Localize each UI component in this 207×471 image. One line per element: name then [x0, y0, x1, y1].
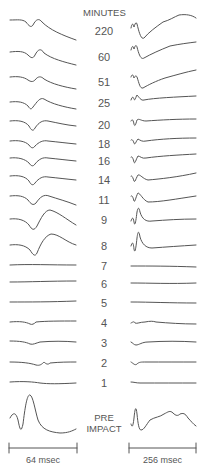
left-scale-bar — [9, 443, 77, 453]
scale-bars — [9, 443, 196, 453]
trace-right-11 — [131, 193, 196, 202]
row-label: 20 — [83, 119, 125, 131]
trace-right-2 — [131, 362, 196, 365]
row-label: 11 — [83, 194, 125, 206]
row-label: 3 — [83, 337, 125, 349]
trace-left-6 — [10, 281, 76, 282]
trace-left-60 — [10, 50, 76, 65]
left-traces — [10, 20, 76, 433]
trace-right-220 — [131, 15, 196, 39]
row-label: 25 — [83, 97, 125, 109]
row-label: 8 — [83, 240, 125, 252]
pre-impact-label-line1: PRE — [83, 413, 125, 423]
trace-right-5 — [131, 302, 196, 303]
trace-left-11 — [10, 195, 76, 205]
trace-right-pre-impact — [131, 409, 196, 430]
right-scale-label: 256 msec — [129, 455, 196, 465]
trace-right-1 — [131, 382, 196, 383]
pre-impact-label-line2: IMPACT — [83, 424, 125, 434]
trace-left-25 — [10, 99, 76, 109]
trace-right-4 — [131, 321, 196, 324]
row-label: 60 — [83, 51, 125, 63]
trace-left-51 — [10, 77, 76, 89]
trace-right-9 — [131, 208, 196, 224]
trace-left-20 — [10, 121, 76, 131]
trace-left-5 — [10, 301, 76, 302]
row-label: 16 — [83, 155, 125, 167]
trace-right-20 — [131, 119, 196, 125]
trace-right-7 — [131, 266, 196, 267]
trace-left-220 — [10, 20, 76, 40]
trace-left-1 — [10, 382, 76, 384]
trace-left-14 — [10, 176, 76, 185]
trace-left-2 — [10, 362, 76, 365]
row-label: 220 — [83, 25, 125, 37]
trace-left-4 — [10, 321, 76, 324]
left-scale-label: 64 msec — [9, 455, 77, 465]
trace-left-18 — [10, 141, 76, 148]
row-label: 6 — [83, 278, 125, 290]
trace-left-9 — [10, 210, 76, 229]
row-label: 7 — [83, 260, 125, 272]
row-label: 51 — [83, 76, 125, 88]
row-label: 1 — [83, 377, 125, 389]
trace-left-8 — [10, 234, 76, 255]
trace-right-14 — [131, 173, 196, 181]
trace-right-3 — [131, 341, 196, 345]
trace-left-3 — [10, 341, 76, 344]
right-traces — [131, 15, 196, 430]
trace-right-8 — [131, 232, 196, 251]
row-label: 18 — [83, 138, 125, 150]
trace-right-51 — [131, 70, 196, 88]
waveform-traces — [0, 0, 207, 471]
trace-left-pre-impact — [10, 395, 76, 433]
trace-right-16 — [131, 154, 196, 163]
trace-right-60 — [131, 42, 196, 58]
minutes-header: MINUTES — [83, 7, 125, 19]
row-label: 2 — [83, 357, 125, 369]
row-label: 4 — [83, 317, 125, 329]
trace-right-25 — [131, 95, 196, 100]
row-label: 14 — [83, 174, 125, 186]
row-label: 9 — [83, 214, 125, 226]
trace-left-16 — [10, 158, 76, 166]
row-label: 5 — [83, 297, 125, 309]
trace-right-18 — [131, 138, 196, 144]
right-scale-bar — [129, 443, 196, 453]
